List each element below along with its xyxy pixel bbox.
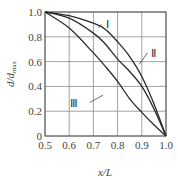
x-tick-label: 0.8 xyxy=(111,139,125,151)
grid-lines xyxy=(45,12,166,136)
leader-line-3 xyxy=(90,95,103,102)
y-tick-label: 1.0 xyxy=(28,6,42,18)
y-axis-label: d/dmax xyxy=(4,60,18,87)
y-tick-label: 0.4 xyxy=(28,80,42,92)
plot-frame xyxy=(45,12,166,136)
curve-labels: ⅠⅡⅢ xyxy=(70,18,157,108)
axes xyxy=(45,12,166,136)
curve-label-3: Ⅲ xyxy=(70,97,78,109)
x-tick-label: 0.6 xyxy=(62,139,76,151)
y-tick-label: 0.8 xyxy=(28,31,42,43)
curve-3 xyxy=(45,12,166,136)
curve-label-2: Ⅱ xyxy=(151,47,156,59)
x-tick-label: 1.0 xyxy=(159,139,173,151)
x-tick-label: 0.7 xyxy=(87,139,101,151)
curve-label-1: Ⅰ xyxy=(106,18,109,30)
curve-2 xyxy=(45,12,166,136)
leader-line-2 xyxy=(139,53,147,64)
y-tick-label: 0 xyxy=(37,130,43,142)
x-axis-label: x/L xyxy=(97,166,112,178)
y-axis-label-main: d/d xyxy=(4,73,16,88)
curve-1 xyxy=(45,12,166,136)
y-tick-labels: 00.20.40.60.81.0 xyxy=(28,6,42,142)
x-tick-label: 0.9 xyxy=(135,139,149,151)
x-tick-labels: 0.50.60.70.80.91.0 xyxy=(38,139,173,151)
y-tick-label: 0.2 xyxy=(28,105,42,117)
y-axis-label-sub: max xyxy=(10,60,18,73)
chart: 0.50.60.70.80.91.0 00.20.40.60.81.0 ⅠⅡⅢ … xyxy=(0,0,178,180)
data-curves xyxy=(45,12,166,136)
y-tick-label: 0.6 xyxy=(28,56,42,68)
